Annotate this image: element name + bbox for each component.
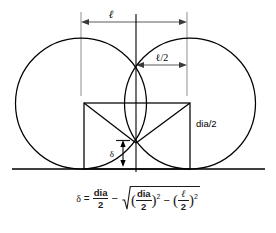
diagram-root: ℓ ℓ/2 δ dia/2 [0,0,276,233]
formula-radical: ( dia 2 ) 2 − ( ℓ 2 ) [122,186,200,212]
label-ell-half: ℓ/2 [156,52,169,63]
formula-inner-minus: − [164,195,170,206]
sagitta-formula: δ = dia 2 − ( dia 2 ) [76,186,200,212]
formula-term2-denominator: 2 [140,201,147,212]
arrowhead-ell-half-right [179,62,187,68]
arrowhead-ell-left [81,19,89,25]
dimension-delta: δ [110,140,130,167]
formula-area: δ = dia 2 − ( dia 2 ) [0,186,276,230]
formula-exponent-1: 2 [157,193,161,200]
label-delta: δ [110,149,114,159]
formula-term1-denominator: 2 [97,199,104,210]
formula-term3-denominator: 2 [180,201,187,212]
diagonal-left [84,103,136,143]
inscribed-square [84,103,190,169]
dimension-ell-half: ℓ/2 [136,52,187,68]
arrowhead-delta-bottom [120,160,125,167]
formula-term2-numerator: dia [136,189,152,200]
formula-delta-symbol: δ [76,194,81,204]
formula-term3-numerator: ℓ [180,189,186,200]
formula-term-ell-over-2: ℓ 2 [178,189,189,212]
dimension-ell: ℓ [81,8,187,25]
arrowhead-ell-right [179,19,187,25]
formula-minus: − [111,193,117,204]
formula-term-dia-over-2-squared: dia 2 [136,189,152,211]
label-ell: ℓ [109,8,114,20]
formula-exponent-2: 2 [194,193,198,200]
formula-term1-numerator: dia [93,188,109,199]
formula-radicand: ( dia 2 ) 2 − ( ℓ 2 ) [130,186,200,212]
formula-term-dia-over-2: dia 2 [93,188,109,210]
formula-equals: = [84,194,90,204]
label-dia-half: dia/2 [196,118,217,129]
